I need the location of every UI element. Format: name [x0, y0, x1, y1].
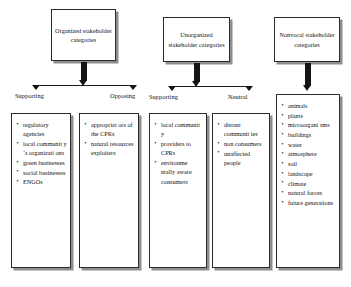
header-box-organized: Organized stakeholder categories: [51, 9, 116, 61]
branch-line-unorganized: [172, 86, 249, 87]
list-item: landscape: [281, 169, 336, 178]
list-item: plants: [281, 111, 336, 120]
list-box-nonvocal: animalsplantsmicroorgani smsbuildingswat…: [276, 94, 340, 268]
list-item: buildings: [281, 130, 336, 139]
list-item: animals: [281, 101, 336, 110]
list-item: unaffected people: [217, 149, 266, 168]
branch-label-unorganized-neutral: Neutral: [228, 93, 248, 101]
header-box-unorganized: Unorganized stakeholder categories: [163, 17, 230, 62]
arrow-head-organized-supporting-icon: [32, 85, 40, 90]
arrow-stem-nonvocal: [305, 63, 311, 86]
list-item: water: [281, 140, 336, 149]
list-box-organized-opposing: appropriat ors of the CPRsnatural resour…: [79, 113, 139, 268]
list-item: appropriat ors of the CPRs: [84, 120, 135, 139]
list-item: environme ntally aware consumers: [154, 158, 203, 186]
list-item: soil: [281, 159, 336, 168]
list-box-unorganized-neutral: distant communit iesnon consumersunaffec…: [212, 113, 270, 268]
list-item: microorgani sms: [281, 120, 336, 129]
header-box-organized-label: Organized stakeholder categories: [52, 26, 115, 45]
arrow-head-organized-opposing-icon: [129, 85, 137, 90]
arrow-head-unorganized-neutral-icon: [245, 86, 253, 91]
arrow-head-unorganized-supporting-icon: [168, 86, 176, 91]
list-box-organized-supporting: regulatory agencieslocal communit y´s or…: [11, 113, 71, 268]
bullet-list: regulatory agencieslocal communit y´s or…: [16, 120, 67, 187]
list-item: regulatory agencies: [16, 120, 67, 139]
list-item: natural resources exploiters: [84, 139, 135, 158]
header-box-unorganized-label: Unorganized stakeholder categories: [164, 30, 229, 49]
list-item: local communit y: [154, 120, 203, 139]
branch-line-organized: [36, 85, 133, 86]
list-box-unorganized-supporting: local communit yproviders to CPRsenviron…: [149, 113, 207, 268]
header-box-nonvocal: Nonvocal stakeholder categories: [274, 17, 340, 62]
arrow-stem-organized: [81, 62, 87, 81]
list-item: non consumers: [217, 139, 266, 148]
list-item: natural forces: [281, 188, 336, 197]
bullet-list: distant communit iesnon consumersunaffec…: [217, 120, 266, 167]
list-item: ENGOs: [16, 177, 67, 186]
branch-label-organized-supporting: Supporting: [15, 92, 44, 100]
bullet-list: animalsplantsmicroorgani smsbuildingswat…: [281, 101, 336, 207]
branch-label-organized-opposing: Opposing: [110, 92, 135, 100]
header-box-nonvocal-label: Nonvocal stakeholder categories: [275, 30, 339, 49]
list-item: climate: [281, 179, 336, 188]
list-item: social businesses: [16, 168, 67, 177]
list-item: distant communit ies: [217, 120, 266, 139]
list-item: providers to CPRs: [154, 139, 203, 158]
bullet-list: local communit yproviders to CPRsenviron…: [154, 120, 203, 186]
diagram-canvas: Organized stakeholder categories Unorgan…: [0, 0, 351, 287]
list-item: atmosphere: [281, 149, 336, 158]
arrow-head-nonvocal-down-icon: [303, 85, 311, 91]
arrow-stem-unorganized: [194, 63, 200, 82]
bullet-list: appropriat ors of the CPRsnatural resour…: [84, 120, 135, 158]
list-item: local communit y´s organizati ons: [16, 139, 67, 158]
branch-label-unorganized-supporting: Supporting: [149, 93, 178, 101]
list-item: green businesses: [16, 158, 67, 167]
list-item: future generations: [281, 198, 336, 207]
